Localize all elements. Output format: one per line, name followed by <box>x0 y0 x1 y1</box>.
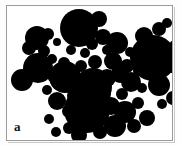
particle-disc <box>51 127 61 137</box>
particle-disc <box>95 86 111 102</box>
particle-disc <box>106 32 128 54</box>
particle-disc <box>148 74 170 96</box>
particle-disc <box>86 38 98 50</box>
particle-disc <box>80 48 90 58</box>
particle-disc <box>63 122 75 134</box>
panel-shadow-bottom <box>8 142 175 143</box>
particle-disc <box>42 28 54 40</box>
particle-disc <box>132 97 144 109</box>
panel-shadow-right <box>174 7 175 143</box>
particle-disc <box>53 38 61 46</box>
particle-disc <box>116 88 128 100</box>
particle-disc <box>66 45 76 55</box>
particle-disc <box>133 66 143 76</box>
particle-disc <box>93 125 107 139</box>
figure-panel: a <box>0 0 180 146</box>
particle-disc <box>88 55 102 69</box>
particle-disc <box>75 60 87 72</box>
particle-disc <box>157 99 167 109</box>
particle-disc <box>125 47 135 57</box>
panel-label: a <box>14 120 21 133</box>
particle-disc <box>104 115 126 137</box>
particle-disc <box>42 85 52 95</box>
particle-disc <box>139 110 155 126</box>
particle-disc <box>127 119 141 133</box>
particle-disc <box>22 41 36 55</box>
particle-disc <box>11 69 33 91</box>
panel-frame: a <box>6 5 173 141</box>
particle-disc <box>91 11 107 27</box>
particle-aggregate-plot <box>7 6 172 140</box>
particle-disc <box>44 114 54 124</box>
particle-disc <box>27 55 37 65</box>
particle-disc <box>162 18 172 28</box>
particle-disc <box>62 104 76 118</box>
